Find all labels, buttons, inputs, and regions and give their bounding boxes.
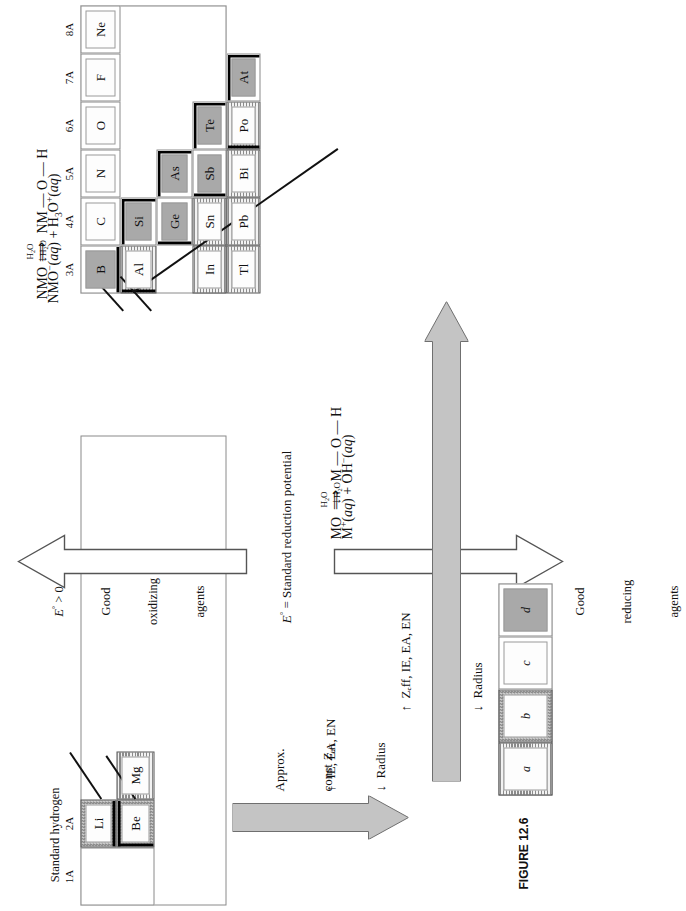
- nonmetal-oxide-step3: NMO−(aq) + H3O+(aq): [44, 173, 64, 303]
- element-cell-b[interactable]: B: [80, 245, 120, 293]
- element-cell-n[interactable]: N: [80, 149, 120, 197]
- element-cell-si[interactable]: Si: [120, 197, 156, 245]
- legend-item-a[interactable]: a: [498, 742, 552, 795]
- trend-arrow-approx-const-zeff: [232, 795, 408, 839]
- approx-line-4: ↓ Radius: [372, 718, 389, 791]
- element-cell-as[interactable]: As: [156, 149, 192, 197]
- oxidizing-line-3: oxidizing: [145, 541, 161, 661]
- element-cell-te[interactable]: Te: [192, 101, 226, 149]
- element-cell-c[interactable]: C: [80, 197, 120, 245]
- oxidizing-line-4: agents: [192, 541, 208, 661]
- legend-label-a: a: [518, 766, 533, 772]
- element-symbol-tl: Tl: [235, 263, 251, 275]
- reducing-line-3: reducing: [619, 541, 635, 661]
- element-symbol-al: Al: [130, 263, 146, 276]
- trend-label-radius: ↓ Radius: [470, 662, 485, 711]
- element-cell-at[interactable]: At: [226, 53, 260, 101]
- element-symbol-c: C: [92, 217, 108, 226]
- element-symbol-ne: Ne: [92, 21, 108, 36]
- element-symbol-n: N: [92, 168, 108, 177]
- oxidizing-agents-label: E° > 0 Good oxidizing agents: [18, 541, 239, 661]
- group-label-1a: 1A: [62, 847, 74, 905]
- element-cell-in[interactable]: In: [192, 245, 226, 293]
- element-cell-bi[interactable]: Bi: [226, 149, 260, 197]
- figure-caption: FIGURE 12.6: [516, 817, 530, 889]
- element-symbol-sb: Sb: [201, 166, 217, 180]
- approx-line-1: Approx.: [271, 743, 287, 791]
- element-cell-li[interactable]: Li: [80, 799, 116, 847]
- element-symbol-po: Po: [235, 118, 251, 132]
- element-cell-ge[interactable]: Ge: [156, 197, 192, 245]
- reducing-line-2: Good: [572, 541, 588, 661]
- element-cell-pb[interactable]: Pb: [226, 197, 260, 245]
- legend-label-b: b: [518, 713, 533, 719]
- element-symbol-at: At: [235, 71, 251, 84]
- element-cell-mg[interactable]: Mg: [116, 751, 154, 799]
- element-symbol-ge: Ge: [166, 213, 182, 228]
- group-1a-empty-cell: [80, 847, 154, 905]
- trend-arrow-zeff-radius: [424, 301, 468, 781]
- element-symbol-si: Si: [130, 216, 146, 227]
- element-cell-po[interactable]: Po: [226, 101, 260, 149]
- oxidizing-line-2: Good: [98, 541, 114, 661]
- standard-reduction-potential-label: E° = Standard reduction potential: [262, 469, 309, 639]
- legend-label-d: d: [518, 607, 533, 613]
- element-symbol-te: Te: [201, 119, 217, 132]
- element-symbol-o: O: [92, 120, 108, 129]
- reducing-line-4: agents: [666, 541, 682, 661]
- element-cell-tl[interactable]: Tl: [226, 245, 260, 293]
- element-symbol-as: As: [166, 166, 182, 180]
- trend-label-zeff: ↑ Zₑff, IE, EA, EN: [398, 612, 413, 711]
- element-symbol-be: Be: [127, 816, 143, 830]
- element-symbol-sn: Sn: [201, 214, 217, 228]
- element-cell-al[interactable]: Al: [120, 245, 156, 293]
- element-cell-o[interactable]: O: [80, 101, 120, 149]
- legend-label-c: c: [518, 660, 533, 665]
- oxidizing-line-1: E° > 0: [49, 541, 67, 661]
- element-symbol-in: In: [201, 264, 217, 275]
- she-line-1: Standard hydrogen: [47, 776, 61, 893]
- legend-item-c[interactable]: c: [498, 636, 552, 689]
- element-cell-be[interactable]: Be: [116, 799, 154, 847]
- element-cell-f[interactable]: F: [80, 53, 120, 101]
- trend-label-ie-ea-en: ↑ IE, EA, EN ↓ Radius: [288, 718, 423, 791]
- element-symbol-pb: Pb: [235, 214, 251, 228]
- element-symbol-f: F: [92, 73, 108, 80]
- legend-item-b[interactable]: b: [498, 689, 552, 742]
- element-symbol-bi: Bi: [235, 167, 251, 179]
- element-symbol-li: Li: [90, 817, 106, 829]
- approx-line-3: ↑ IE, EA, EN: [322, 718, 339, 791]
- element-cell-sn[interactable]: Sn: [192, 197, 226, 245]
- element-symbol-b: B: [92, 265, 108, 274]
- legend-item-d[interactable]: d: [498, 583, 552, 636]
- element-cell-ne[interactable]: Ne: [80, 5, 120, 53]
- group-label-2a: 2A: [62, 799, 74, 847]
- element-symbol-mg: Mg: [127, 766, 143, 784]
- element-cell-sb[interactable]: Sb: [192, 149, 226, 197]
